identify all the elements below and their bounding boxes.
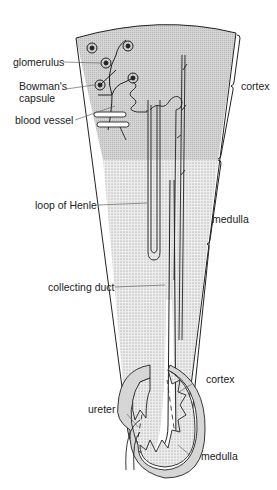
- label-cortex-lower: cortex: [206, 373, 235, 385]
- kidney-diagram: [0, 0, 277, 490]
- label-ureter: ureter: [88, 403, 115, 415]
- label-blood-vessel: blood vessel: [15, 114, 73, 126]
- label-collecting-duct: collecting duct: [48, 281, 115, 293]
- label-medulla-upper: medulla: [212, 213, 249, 225]
- label-glomerulus: glomerulus: [13, 56, 64, 68]
- label-medulla-lower: medulla: [201, 450, 238, 462]
- label-loop-of-henle: loop of Henle: [35, 199, 97, 211]
- nephron-wedge: [76, 25, 236, 454]
- cortex-region: [76, 25, 236, 160]
- label-bowmans-capsule-1: Bowman's: [19, 80, 67, 92]
- label-cortex-upper: cortex: [241, 80, 270, 92]
- label-bowmans-capsule-2: capsule: [19, 92, 55, 104]
